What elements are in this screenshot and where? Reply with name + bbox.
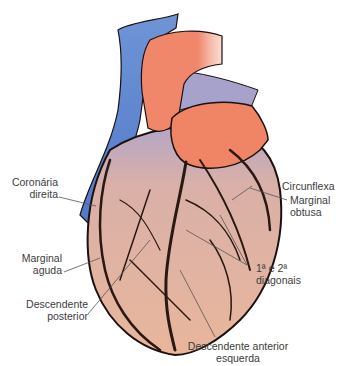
label-circunflexa: Circunflexa [282, 180, 335, 192]
label-coronaria-direita: Coronária direita [4, 176, 58, 200]
label-marginal-aguda: Marginal aguda [4, 252, 62, 276]
label-marginal-obtusa: Marginal obtusa [290, 194, 330, 218]
label-descendente-posterior: Descendente posterior [4, 298, 88, 322]
label-diagonais: 1ª e 2ª diagonais [256, 262, 301, 286]
label-descendente-anterior-esquerda: Descendente anterior esquerda [178, 340, 298, 364]
